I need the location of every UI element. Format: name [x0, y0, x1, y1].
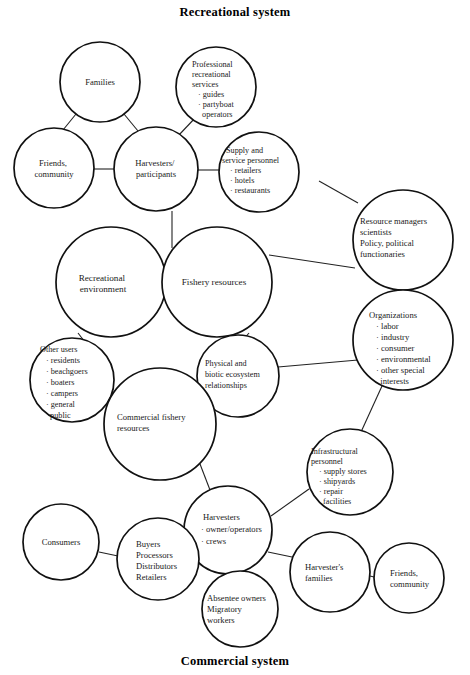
commercial-system-title: Commercial system [181, 654, 290, 668]
node-circle-friends-community-top[interactable] [14, 128, 94, 208]
connector-supply-resourcemanagers [319, 181, 358, 203]
connector-consumers-buyers [99, 552, 118, 556]
recreational-system-title: Recreational system [180, 5, 291, 19]
label-consumers: Consumers [42, 537, 81, 547]
label-harvesters-participants: Harvesters/ participants [135, 158, 176, 179]
node-circle-harvesters-families[interactable] [290, 532, 370, 612]
connector-harvesterscomm-harvfamilies [268, 552, 292, 557]
label-friends-community-top: Friends, community [34, 158, 74, 179]
diagram-root: Families Professional recreational servi… [0, 0, 470, 675]
label-families: Families [85, 77, 115, 87]
connector-fishery-resourcemanagers [269, 255, 355, 268]
label-fishery-resources: Fishery resources [182, 277, 247, 287]
connector-physical-organizations [278, 360, 358, 367]
node-circle-friends-community-bottom[interactable] [374, 543, 444, 613]
connector-organizations-infrastructural [361, 386, 382, 432]
connector-commercial-harvesterscomm [200, 464, 210, 490]
system-diagram: Families Professional recreational servi… [0, 0, 470, 675]
label-recreational-environment: Recreational environment [79, 273, 128, 294]
connector-families-friends [63, 114, 76, 130]
connector-harvesterscomm-infrastructural [271, 489, 309, 516]
connector-families-harvesters [124, 114, 138, 131]
